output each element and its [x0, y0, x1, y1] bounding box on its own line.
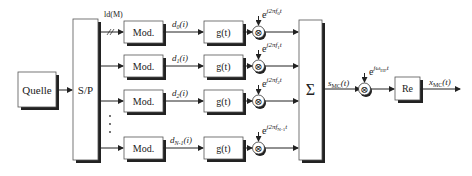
re-block: Re — [395, 77, 423, 103]
svg-text:S/P: S/P — [78, 84, 93, 96]
sp-block: S/P — [73, 19, 101, 163]
svg-text:Mod.: Mod. — [133, 27, 154, 38]
xmc-label: xMC(t) — [428, 77, 451, 88]
svg-text:Σ: Σ — [306, 81, 315, 98]
sum-block: Σ — [299, 20, 325, 163]
svg-text:⊗: ⊗ — [254, 96, 262, 107]
svg-text:ej2πfN-1t: ej2πfN-1t — [262, 123, 288, 136]
svg-text:Quelle: Quelle — [22, 84, 51, 96]
svg-text:ej2πf1t: ej2πf1t — [262, 41, 283, 54]
source-block: Quelle — [18, 72, 59, 110]
svg-text:g(t): g(t) — [216, 61, 230, 73]
svg-text:g(t): g(t) — [216, 27, 230, 39]
svg-text:⊗: ⊗ — [254, 27, 262, 38]
svg-text:Mod.: Mod. — [133, 143, 154, 154]
branch-2: Mod. d2(i) g(t) ⊗ ej2πf2t — [101, 76, 298, 115]
svg-text:⊗: ⊗ — [360, 84, 368, 95]
svg-text:g(t): g(t) — [216, 143, 230, 155]
branch-1: Mod. d1(i) g(t) ⊗ ej2πf1t — [101, 41, 298, 80]
svg-text:ej2πf2t: ej2πf2t — [262, 76, 283, 89]
hf-mixer: ⊗ ejωHFt — [359, 64, 390, 97]
svg-text:Mod.: Mod. — [133, 96, 154, 107]
svg-text:⊗: ⊗ — [254, 143, 262, 154]
svg-text:g(t): g(t) — [216, 96, 230, 108]
svg-text:d0(i): d0(i) — [172, 19, 188, 30]
block-diagram: Quelle S/P ld(M) Mod. d0(i) g(t) ⊗ ej2πf… — [0, 0, 472, 176]
svg-text:ej2πf0t: ej2πf0t — [262, 7, 283, 20]
svg-text:ejωHFt: ejωHFt — [369, 64, 390, 77]
smc-label: sMC(t) — [328, 78, 349, 89]
svg-text:⊗: ⊗ — [254, 61, 262, 72]
branch-n-1: Mod. dN-1(i) g(t) ⊗ ej2πfN-1t — [101, 123, 298, 162]
svg-text:dN-1(i): dN-1(i) — [170, 135, 192, 146]
svg-text:d1(i): d1(i) — [172, 53, 188, 64]
bus-width-label: ld(M) — [104, 10, 123, 19]
svg-text:d2(i): d2(i) — [172, 88, 188, 99]
svg-text:Re: Re — [402, 83, 414, 94]
svg-text:Mod.: Mod. — [133, 61, 154, 72]
